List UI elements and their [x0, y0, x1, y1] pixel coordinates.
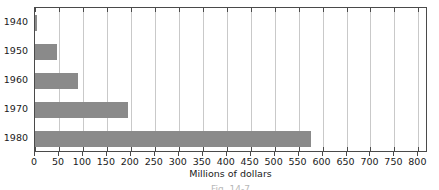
bar	[35, 15, 37, 31]
x-tick-mark-top	[347, 8, 348, 12]
x-tick-mark-top	[131, 8, 132, 12]
x-tick-mark-top	[155, 8, 156, 12]
x-axis-title: Millions of dollars	[34, 168, 427, 179]
x-tick-mark-top	[370, 8, 371, 12]
figure-caption: Fig. 14-7	[34, 184, 427, 190]
bar	[35, 102, 128, 118]
x-tick-mark-inner	[275, 147, 276, 151]
x-tick-mark-inner	[227, 147, 228, 151]
x-tick-mark-top	[251, 8, 252, 12]
bar	[35, 131, 311, 147]
x-tick-mark-inner	[418, 147, 419, 151]
x-tick-mark-inner	[155, 147, 156, 151]
x-tick-mark-inner	[131, 147, 132, 151]
y-axis-tick-label: 1960	[0, 74, 28, 85]
gridline	[347, 8, 348, 151]
gridline	[418, 8, 419, 151]
x-tick-mark-inner	[370, 147, 371, 151]
x-tick-mark-inner	[83, 147, 84, 151]
x-tick-mark-top	[418, 8, 419, 12]
bar	[35, 44, 57, 60]
y-axis-tick-labels: 19401950196019701980	[0, 7, 32, 152]
x-tick-mark-inner	[323, 147, 324, 151]
bar-chart-figure: 19401950196019701980 0501001502002503003…	[0, 0, 439, 190]
x-tick-mark-top	[227, 8, 228, 12]
x-tick-mark-inner	[394, 147, 395, 151]
y-axis-tick-label: 1950	[0, 45, 28, 56]
x-tick-mark-inner	[347, 147, 348, 151]
x-tick-mark-inner	[59, 147, 60, 151]
x-tick-mark-inner	[203, 147, 204, 151]
y-axis-tick-label: 1970	[0, 103, 28, 114]
x-tick-mark-top	[394, 8, 395, 12]
x-tick-mark-top	[107, 8, 108, 12]
x-tick-mark-inner	[179, 147, 180, 151]
x-tick-mark-top	[275, 8, 276, 12]
x-tick-mark-top	[203, 8, 204, 12]
x-axis-tick-label: 800	[397, 156, 437, 167]
bar	[35, 73, 78, 89]
gridline	[370, 8, 371, 151]
x-tick-mark-top	[83, 8, 84, 12]
x-tick-mark-top	[179, 8, 180, 12]
gridline	[394, 8, 395, 151]
x-tick-mark-inner	[251, 147, 252, 151]
x-tick-mark-inner	[299, 147, 300, 151]
plot-area	[34, 7, 427, 152]
x-tick-mark-top	[299, 8, 300, 12]
gridline	[323, 8, 324, 151]
y-axis-tick-label: 1940	[0, 16, 28, 27]
x-tick-mark-top	[323, 8, 324, 12]
x-tick-mark-top	[35, 8, 36, 12]
y-axis-tick-label: 1980	[0, 132, 28, 143]
x-tick-mark-inner	[107, 147, 108, 151]
x-tick-mark-top	[59, 8, 60, 12]
x-tick-mark-inner	[35, 147, 36, 151]
